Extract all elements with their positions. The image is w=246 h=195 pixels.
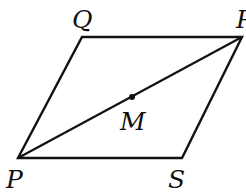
label-s: S <box>168 165 185 194</box>
midpoint-m <box>129 94 135 100</box>
parallelogram-diagram: Q R P S M <box>0 0 246 195</box>
label-q: Q <box>72 5 93 34</box>
label-m: M <box>119 107 147 136</box>
label-p: P <box>5 165 24 194</box>
label-r: R <box>235 5 246 34</box>
